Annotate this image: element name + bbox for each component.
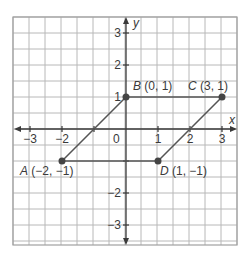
point-c — [219, 94, 226, 101]
axes — [14, 17, 237, 245]
y-arrow-up-icon — [123, 17, 129, 24]
point-label-a: A (−2, −1) — [19, 164, 73, 178]
x-axis-label: x — [228, 113, 236, 127]
y-axis-label: y — [132, 16, 140, 30]
point-label-d: D (1, −1) — [160, 164, 207, 178]
coordinate-plane: −3−2123321−2−3 A (−2, −1)B (0, 1)C (3, 1… — [0, 0, 250, 256]
y-tick-label: 3 — [114, 26, 121, 40]
point-label-c: C (3, 1) — [188, 79, 228, 93]
y-tick-label: 1 — [114, 90, 121, 104]
x-tick-label: −3 — [23, 132, 37, 146]
origin-label: 0 — [113, 132, 120, 146]
y-tick-label: 2 — [114, 58, 121, 72]
grid — [13, 17, 237, 245]
x-tick-label: −2 — [55, 132, 69, 146]
x-tick-label: 1 — [155, 132, 162, 146]
y-tick-label: −3 — [107, 218, 121, 232]
y-tick-label: −2 — [107, 186, 121, 200]
x-tick-label: 3 — [219, 132, 226, 146]
x-tick-label: 2 — [187, 132, 194, 146]
point-label-b: B (0, 1) — [133, 79, 172, 93]
point-b — [123, 94, 130, 101]
x-arrow-left-icon — [14, 126, 21, 132]
